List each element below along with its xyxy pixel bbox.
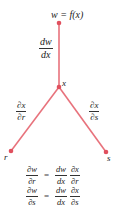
fraction-denominator: ∂r (28, 176, 36, 186)
equation-rhs-term2: ∂x ∂r (70, 165, 80, 185)
equals-sign: = (41, 191, 52, 201)
node-w-dot (57, 21, 62, 26)
fraction-denominator: ∂s (90, 112, 98, 122)
equation-partial-w-r: ∂w ∂r = dw dx ∂x ∂r (26, 165, 80, 185)
node-s-label: s (107, 154, 111, 163)
fraction-denominator: dx (57, 176, 65, 186)
node-x-dot (57, 85, 62, 90)
node-r-label: r (4, 153, 8, 162)
equation-partial-w-s: ∂w ∂s = dw dx ∂x ∂s (26, 186, 80, 206)
equation-rhs-term1: dw dx (55, 186, 67, 206)
node-r-dot (9, 149, 14, 154)
fraction-denominator: ∂s (28, 197, 36, 207)
node-x-label: x (62, 79, 66, 88)
fraction-numerator: ∂w (26, 186, 38, 197)
fraction-numerator: ∂x (89, 101, 99, 112)
fraction-denominator: dx (41, 49, 50, 60)
edge-label-dx-ds: ∂x ∂s (89, 101, 99, 122)
node-w-label: w = f(x) (51, 10, 83, 20)
fraction-numerator: dw (55, 186, 67, 197)
fraction-denominator: dx (57, 197, 65, 207)
fraction-denominator: ∂r (17, 112, 25, 122)
equation-rhs-term2: ∂x ∂s (70, 186, 80, 206)
fraction-numerator: ∂w (26, 165, 38, 176)
fraction-numerator: dw (39, 37, 53, 49)
edge-label-dw-dx: dw dx (39, 37, 53, 60)
fraction-numerator: dw (55, 165, 67, 176)
equation-lhs: ∂w ∂s (26, 186, 38, 206)
fraction-denominator: ∂s (71, 197, 79, 207)
fraction-numerator: ∂x (16, 101, 26, 112)
equation-rhs-term1: dw dx (55, 165, 67, 185)
edge-label-dx-dr: ∂x ∂r (16, 101, 26, 122)
equation-lhs: ∂w ∂r (26, 165, 38, 185)
fraction-numerator: ∂x (70, 165, 80, 176)
equals-sign: = (41, 170, 52, 180)
fraction-numerator: ∂x (70, 186, 80, 197)
fraction-denominator: ∂r (71, 176, 79, 186)
